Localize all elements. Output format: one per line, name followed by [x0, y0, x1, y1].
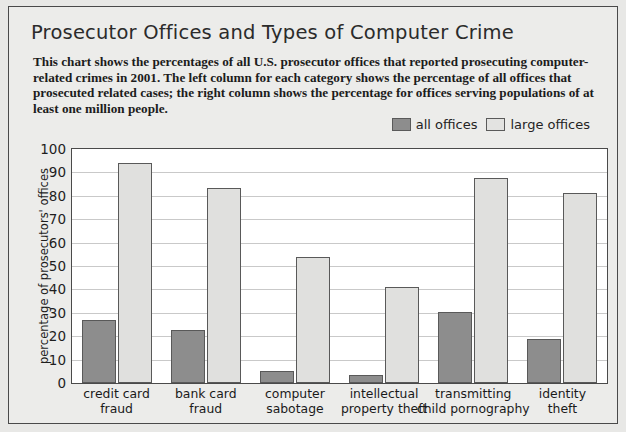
- figure-container: Prosecutor Offices and Types of Computer…: [0, 0, 626, 432]
- bar-large-offices: [563, 193, 597, 383]
- legend-item-large-offices: large offices: [486, 117, 590, 132]
- bar-large-offices: [207, 188, 241, 383]
- gridline: [72, 243, 607, 244]
- bar-large-offices: [296, 257, 330, 383]
- bar-large-offices: [385, 287, 419, 383]
- y-axis-tick-label: 70: [49, 211, 66, 227]
- x-axis-label-line: theft: [506, 402, 619, 417]
- y-axis-tick-label: 40: [49, 281, 66, 297]
- figure-frame: Prosecutor Offices and Types of Computer…: [8, 6, 618, 424]
- y-axis-tick-label: 10: [49, 352, 66, 368]
- gridline: [72, 336, 607, 337]
- legend-swatch-icon-all-offices: [392, 118, 411, 131]
- y-axis-tick-label: 80: [49, 188, 66, 204]
- bar-all-offices: [527, 339, 561, 383]
- bar-all-offices: [171, 330, 205, 383]
- gridline: [72, 172, 607, 173]
- legend-swatch-icon-large-offices: [486, 118, 505, 131]
- legend-item-all-offices: all offices: [392, 117, 478, 132]
- chart-plot-area: percentage of prosecutors' offices 01020…: [71, 148, 608, 384]
- page-title: Prosecutor Offices and Types of Computer…: [31, 21, 611, 44]
- x-axis-category-label: identitytheft: [506, 387, 619, 416]
- y-axis-tick-label: 90: [49, 164, 66, 180]
- gridline: [72, 266, 607, 267]
- bar-all-offices: [260, 371, 294, 383]
- legend-label-all-offices: all offices: [416, 117, 478, 132]
- y-axis-tick-label: 30: [49, 305, 66, 321]
- y-axis-tick-label: 50: [49, 258, 66, 274]
- bar-all-offices: [349, 375, 383, 383]
- gridline: [72, 313, 607, 314]
- x-axis-label-line: identity: [506, 387, 619, 402]
- y-axis-tick-label: 60: [49, 235, 66, 251]
- bar-all-offices: [82, 320, 116, 383]
- gridline: [72, 196, 607, 197]
- bar-large-offices: [118, 163, 152, 383]
- chart-description: This chart shows the percentages of all …: [33, 54, 611, 116]
- bar-all-offices: [438, 312, 472, 383]
- legend-label-large-offices: large offices: [510, 117, 590, 132]
- gridline: [72, 289, 607, 290]
- y-axis-tick-label: 20: [49, 328, 66, 344]
- y-axis-tick-label: 100: [40, 141, 66, 157]
- chart-legend: all offices large offices: [392, 117, 590, 132]
- bar-large-offices: [474, 178, 508, 383]
- gridline: [72, 219, 607, 220]
